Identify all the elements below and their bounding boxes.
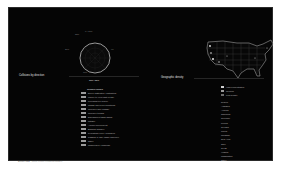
radial-label-right: 90 (111, 48, 114, 51)
section-title-collisions-by-direction: Collisions by direction (19, 74, 44, 77)
divider (69, 76, 139, 77)
code-badge (81, 136, 86, 138)
code-badge (81, 128, 86, 130)
footer: Source data · Motor vehicle collisions d… (18, 160, 62, 162)
code-badge (81, 104, 86, 106)
radial-label-top: 0 / 360 (85, 30, 92, 33)
radial-label-bottom: 180 (83, 71, 87, 74)
list-item[interactable]: Other (221, 158, 244, 162)
legend-item[interactable]: Low density (221, 93, 244, 97)
legend-swatch (221, 94, 224, 96)
dashboard-panel: 0 / 360 330 270 90 180 180 / 360 (9, 8, 272, 160)
divider (194, 78, 264, 79)
us-map (205, 38, 285, 80)
code-badge (81, 112, 86, 114)
code-badge (81, 140, 86, 142)
list-header: Collision causes (87, 88, 103, 90)
collision-causes-list: Collision causes Driver inattention / di… (81, 87, 119, 147)
code-badge (81, 108, 86, 110)
radial-label-top-left: 330 (75, 33, 79, 36)
radial-label-left: 270 (65, 48, 69, 51)
legend-swatch (221, 86, 224, 88)
radial-chart (75, 38, 115, 78)
code-badge (81, 100, 86, 102)
footer-source-label: Source data · (18, 160, 32, 162)
code-badge (81, 124, 86, 126)
code-badge (81, 96, 86, 98)
code-badge (81, 120, 86, 122)
footer-source-link[interactable]: Motor vehicle collisions dataset (32, 160, 62, 162)
code-badge (81, 116, 86, 118)
regions-header: Region (221, 101, 228, 103)
code-badge (81, 144, 86, 146)
region-list: High concentration Medium Low density Re… (221, 85, 244, 162)
radial-caption: 180 / 360 (89, 79, 99, 82)
code-badge (81, 132, 86, 134)
code-badge (81, 92, 86, 94)
legend-swatch (221, 90, 224, 92)
section-title-geographic-density: Geographic density (161, 76, 183, 79)
list-item[interactable]: Unspecified / unknown (81, 143, 119, 147)
